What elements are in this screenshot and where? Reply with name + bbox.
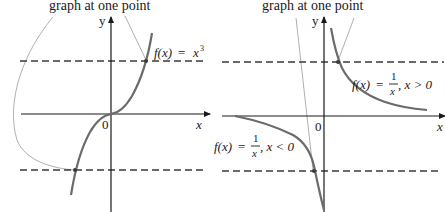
svg-text:x: x [389,85,395,97]
svg-text:=: = [238,139,245,154]
function-label-cube: f(x) = x 3 [154,44,204,60]
pointer-line-right-lower [296,18,313,170]
svg-text:f(x): f(x) [154,45,172,60]
pointer-line-right-upper [338,18,354,61]
x-axis-label-left: x [195,117,202,132]
x-axis-label-right: x [436,119,443,134]
origin-label-right: 0 [315,119,322,134]
curve-reciprocal-negative [235,116,324,210]
svg-text:, x < 0: , x < 0 [260,139,295,154]
pointer-line-left-lower [13,17,74,170]
intersection-point-lower [73,168,77,172]
svg-text:x: x [251,147,257,159]
function-label-reciprocal-negative: f(x) = 1 x , x < 0 [214,132,295,159]
svg-text:f(x): f(x) [352,77,370,92]
y-axis-label-right: y [312,13,319,28]
caption-left: graph at one point [49,0,151,13]
intersection-point-upper [144,59,148,63]
panel-reciprocal: graph at one point y x 0 f(x) = 1 x , x … [214,0,445,212]
intersection-point-upper-right [336,60,340,64]
svg-text:=: = [178,45,185,60]
intersection-point-lower-right [312,169,316,173]
caption-right: graph at one point [262,0,364,13]
svg-text:x: x [192,45,199,60]
panel-cube: graph at one point y x 0 f(x) = x 3 [13,0,210,212]
svg-text:1: 1 [391,70,397,82]
svg-text:f(x): f(x) [214,139,232,154]
svg-text:1: 1 [253,132,259,144]
svg-text:, x > 0: , x > 0 [398,77,433,92]
svg-text:3: 3 [200,44,204,53]
svg-text:=: = [376,77,383,92]
y-axis-label-left: y [99,13,106,28]
figure: graph at one point y x 0 f(x) = x 3 grap… [0,0,445,212]
origin-label-left: 0 [102,117,109,132]
pointer-line-left-upper [125,16,146,60]
